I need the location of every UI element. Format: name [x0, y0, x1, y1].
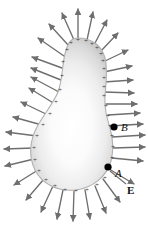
- field-arrow: [31, 77, 59, 92]
- field-arrow: [113, 147, 145, 148]
- field-arrow: [103, 50, 128, 62]
- field-arrow: [32, 57, 62, 68]
- surface-charge-plus: +: [103, 174, 107, 182]
- point-a-dot: [104, 163, 111, 170]
- field-arrow: [49, 24, 69, 46]
- surface-charge-plus: +: [54, 98, 58, 106]
- field-arrow: [112, 158, 143, 161]
- surface-charge-plus: +: [102, 74, 106, 82]
- field-arrow: [26, 179, 44, 200]
- surface-charge-plus: +: [102, 92, 106, 100]
- field-arrow: [4, 148, 34, 149]
- field-arrow: [112, 135, 145, 137]
- diagram-canvas: ++++++++++++++++++++++++++++++++++++: [0, 0, 148, 230]
- surface-charge-plus: +: [101, 57, 105, 65]
- point-a-label: A: [115, 168, 122, 179]
- field-vector-label: E: [127, 185, 134, 196]
- field-arrow: [85, 190, 90, 219]
- surface-charge-plus: +: [85, 186, 89, 194]
- field-arrow: [104, 80, 133, 82]
- field-arrow: [31, 68, 61, 80]
- surface-charge-plus: +: [32, 144, 36, 152]
- surface-charge-plus: +: [44, 176, 48, 184]
- point-b-dot: [110, 123, 117, 130]
- surface-charge-plus: +: [90, 40, 94, 48]
- field-arrow: [38, 38, 64, 56]
- surface-charge-plus: +: [102, 83, 106, 91]
- surface-charge-plus: +: [35, 132, 39, 140]
- surface-charge-plus: +: [110, 154, 114, 162]
- surface-charge-plus: +: [63, 186, 67, 194]
- surface-charge-plus: +: [37, 167, 41, 175]
- surface-charge-plus: +: [65, 46, 69, 54]
- field-arrow: [29, 88, 55, 104]
- surface-charge-plus: +: [69, 39, 73, 47]
- surface-charge-plus: +: [76, 36, 80, 44]
- surface-charge-plus: +: [53, 182, 57, 190]
- point-b-label: B: [121, 122, 128, 133]
- field-arrow: [87, 12, 93, 40]
- field-arrow: [13, 117, 42, 125]
- field-arrow: [103, 179, 120, 202]
- field-arrow: [14, 170, 38, 185]
- surface-charge-plus: +: [61, 58, 65, 66]
- field-arrow: [94, 20, 107, 45]
- surface-charge-plus: +: [95, 181, 99, 189]
- field-arrow: [104, 92, 134, 93]
- field-arrow: [73, 191, 74, 221]
- surface-charge-plus: +: [41, 121, 45, 129]
- surface-charge-plus: +: [110, 132, 114, 140]
- field-arrow: [62, 13, 74, 40]
- field-arrow: [21, 102, 48, 115]
- surface-charge-plus: +: [58, 86, 62, 94]
- field-arrow: [95, 186, 106, 213]
- surface-charge-plus: +: [74, 187, 78, 195]
- surface-charge-plus: +: [48, 110, 52, 118]
- surface-charge-plus: +: [106, 112, 110, 120]
- electric-field-diagram: ++++++++++++++++++++++++++++++++++++ B A…: [0, 0, 148, 230]
- field-arrow: [104, 66, 132, 72]
- surface-charge-plus: +: [33, 156, 37, 164]
- surface-charge-plus: +: [60, 72, 64, 80]
- field-arrow: [108, 113, 140, 115]
- surface-charge-plus: +: [111, 143, 115, 151]
- field-arrow: [57, 190, 63, 219]
- surface-charge-plus: +: [102, 65, 106, 73]
- surface-charge-plus: +: [84, 37, 88, 45]
- field-arrow: [6, 132, 37, 136]
- field-arrow: [5, 159, 34, 166]
- field-arrow: [41, 186, 53, 212]
- surface-charge-plus: +: [104, 102, 108, 110]
